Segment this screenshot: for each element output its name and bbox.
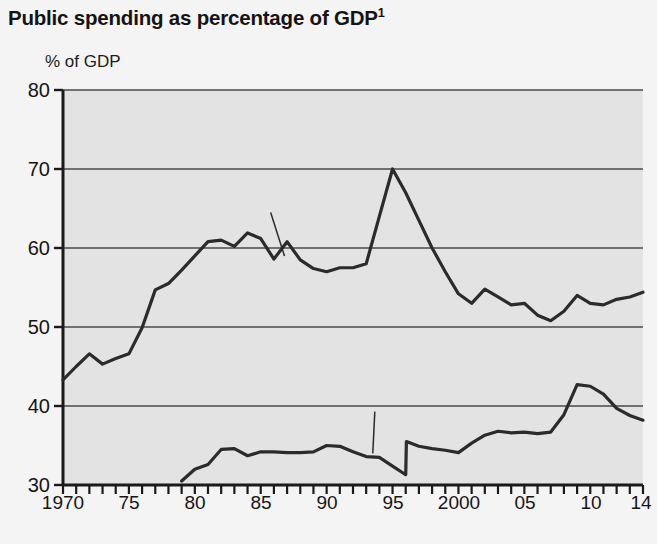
chart-page: Public spending as percentage of GDP1 % …	[0, 0, 657, 544]
chart-plot-area	[0, 0, 657, 544]
